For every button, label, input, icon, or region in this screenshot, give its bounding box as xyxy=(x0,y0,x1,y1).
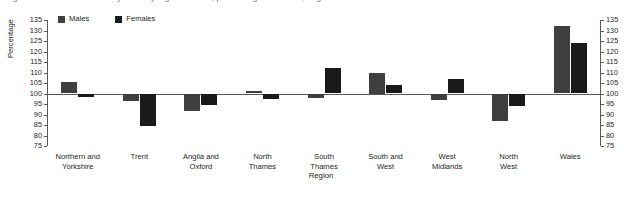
bar-females-5 xyxy=(386,85,402,93)
bar-males-4 xyxy=(308,94,324,98)
y-axis-tick-right-85 xyxy=(601,125,604,126)
y-axis-ticklabel-left-85: 85 xyxy=(34,121,42,128)
bar-females-1 xyxy=(140,94,156,127)
y-axis-ticklabel-right-120: 120 xyxy=(606,48,618,55)
bar-males-6 xyxy=(431,94,447,100)
y-axis-tick-left-95 xyxy=(44,104,47,105)
y-axis-ticklabel-right-85: 85 xyxy=(606,121,614,128)
y-axis-left-spine xyxy=(47,20,48,146)
x-axis-ticklabel-8: Wales xyxy=(531,152,609,162)
y-axis-ticklabel-left-80: 80 xyxy=(34,132,42,139)
figure: Figure 3 Standardised mortality ratios b… xyxy=(0,0,642,199)
y-axis-tick-right-135 xyxy=(601,20,604,21)
y-axis-ticklabel-right-80: 80 xyxy=(606,132,614,139)
y-axis-ticklabel-left-105: 105 xyxy=(30,79,42,86)
plot-area: 1351301251201151101051009590858075 13513… xyxy=(47,20,601,146)
y-axis-ticklabel-left-130: 130 xyxy=(30,27,42,34)
bar-females-4 xyxy=(325,68,341,93)
bar-females-3 xyxy=(263,94,279,99)
bar-males-1 xyxy=(123,94,139,101)
y-axis-tick-left-125 xyxy=(44,41,47,42)
y-axis-ticklabel-right-105: 105 xyxy=(606,79,618,86)
y-axis-tick-left-75 xyxy=(44,146,47,147)
bar-males-3 xyxy=(246,91,262,93)
bar-females-7 xyxy=(509,94,525,107)
y-axis-tick-right-100 xyxy=(601,94,604,95)
y-axis-ticklabel-right-130: 130 xyxy=(606,27,618,34)
y-axis-tick-left-100 xyxy=(44,94,47,95)
y-axis-ticklabel-right-110: 110 xyxy=(606,69,618,76)
y-axis-tick-right-120 xyxy=(601,52,604,53)
y-axis-ticklabel-left-100: 100 xyxy=(30,90,42,97)
bar-males-7 xyxy=(492,94,508,121)
y-axis-tick-right-105 xyxy=(601,83,604,84)
y-axis-tick-left-90 xyxy=(44,115,47,116)
y-axis-ticklabel-left-95: 95 xyxy=(34,100,42,107)
y-axis-ticklabel-right-125: 125 xyxy=(606,37,618,44)
y-axis-tick-right-90 xyxy=(601,115,604,116)
y-axis-tick-left-85 xyxy=(44,125,47,126)
y-axis-tick-left-80 xyxy=(44,136,47,137)
bar-males-2 xyxy=(184,94,200,112)
bar-females-2 xyxy=(201,94,217,106)
y-axis-title: Percentage xyxy=(6,19,15,58)
y-axis-tick-right-75 xyxy=(601,146,604,147)
y-axis-tick-left-130 xyxy=(44,31,47,32)
bar-males-0 xyxy=(61,82,77,94)
y-axis-ticklabel-right-135: 135 xyxy=(606,16,618,23)
y-axis-ticklabel-left-120: 120 xyxy=(30,48,42,55)
bar-females-0 xyxy=(78,94,94,97)
y-axis-tick-right-130 xyxy=(601,31,604,32)
y-axis-ticklabel-right-100: 100 xyxy=(606,90,618,97)
y-axis-tick-left-135 xyxy=(44,20,47,21)
y-axis-ticklabel-right-95: 95 xyxy=(606,100,614,107)
y-axis-tick-right-95 xyxy=(601,104,604,105)
y-axis-tick-right-110 xyxy=(601,73,604,74)
y-axis-ticklabel-left-115: 115 xyxy=(30,58,42,65)
y-axis-tick-left-105 xyxy=(44,83,47,84)
y-axis-tick-right-80 xyxy=(601,136,604,137)
y-axis-ticklabel-left-90: 90 xyxy=(34,111,42,118)
y-axis-tick-right-125 xyxy=(601,41,604,42)
y-axis-tick-left-120 xyxy=(44,52,47,53)
bar-females-8 xyxy=(571,43,587,93)
y-axis-tick-right-115 xyxy=(601,62,604,63)
bar-males-5 xyxy=(369,73,385,94)
y-axis-ticklabel-left-125: 125 xyxy=(30,37,42,44)
figure-caption-sliver: Figure 3 Standardised mortality ratios b… xyxy=(6,0,636,4)
y-axis-ticklabel-right-115: 115 xyxy=(606,58,618,65)
bar-males-8 xyxy=(554,26,570,93)
bar-females-6 xyxy=(448,79,464,94)
y-axis-ticklabel-left-135: 135 xyxy=(30,16,42,23)
x-axis-title: Region xyxy=(0,171,642,180)
y-axis-ticklabel-right-90: 90 xyxy=(606,111,614,118)
y-axis-ticklabel-left-110: 110 xyxy=(30,69,42,76)
y-axis-ticklabel-right-75: 75 xyxy=(606,142,614,149)
y-axis-ticklabel-left-75: 75 xyxy=(34,142,42,149)
y-axis-tick-left-115 xyxy=(44,62,47,63)
y-axis-tick-left-110 xyxy=(44,73,47,74)
